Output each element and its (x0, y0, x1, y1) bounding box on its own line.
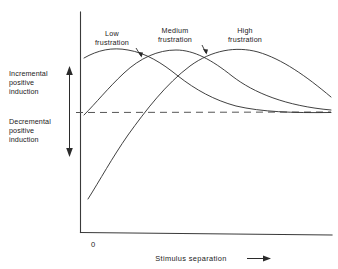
curve-label-high: High frustration (228, 26, 262, 44)
x-axis-line (81, 233, 333, 236)
figure-container: Low frustration Medium frustration High … (0, 0, 338, 269)
origin-tick-label: 0 (91, 240, 95, 249)
y-label-incremental: Incremental positive induction (9, 69, 48, 96)
y-label-incremental-line2: positive (9, 78, 34, 87)
y-label-decremental: Decremental positive induction (9, 117, 51, 144)
curve-label-high-line2: frustration (228, 35, 262, 44)
curve-label-medium: Medium frustration (158, 26, 192, 44)
curve-label-medium-line1: Medium (162, 26, 189, 35)
y-range-double-arrow-icon (66, 66, 73, 157)
x-axis-arrow-icon (247, 255, 271, 261)
curve-label-low-line1: Low (105, 29, 119, 38)
pointer-low-head-icon (138, 52, 143, 58)
y-label-incremental-line3: induction (9, 87, 39, 96)
curve-medium-frustration (84, 50, 331, 115)
y-label-incremental-line1: Incremental (9, 69, 48, 78)
curve-label-medium-line2: frustration (158, 35, 192, 44)
curves-group (84, 49, 331, 199)
curve-high-frustration (88, 49, 331, 199)
curve-low-frustration (84, 49, 331, 113)
curve-label-high-line1: High (237, 26, 253, 35)
curve-label-low: Low frustration (95, 29, 129, 47)
x-axis-label: Stimulus separation (155, 254, 227, 263)
y-label-decremental-line2: positive (9, 126, 34, 135)
chart-svg: Low frustration Medium frustration High … (0, 0, 338, 269)
y-label-decremental-line3: induction (9, 135, 39, 144)
pointer-medium-head-icon (203, 49, 208, 55)
y-label-decremental-line1: Decremental (9, 117, 51, 126)
curve-label-low-line2: frustration (95, 38, 129, 47)
